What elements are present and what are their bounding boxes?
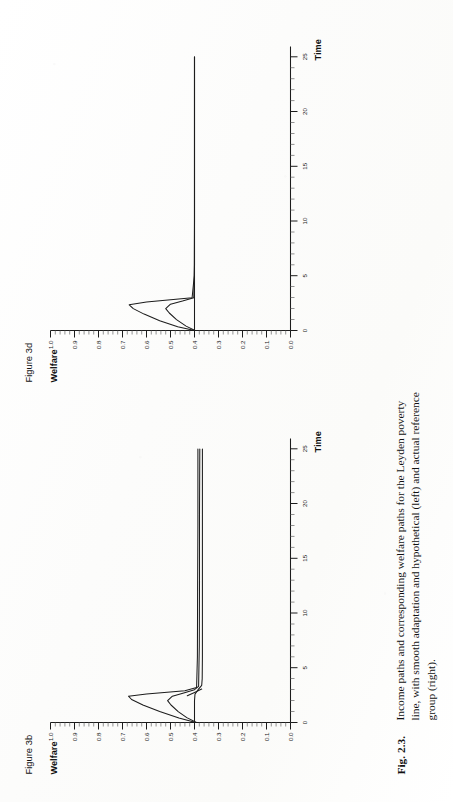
- svg-text:1.0: 1.0: [46, 339, 53, 348]
- svg-text:0.4: 0.4: [190, 339, 197, 348]
- svg-text:0.5: 0.5: [166, 339, 173, 348]
- svg-text:0.9: 0.9: [70, 339, 77, 348]
- svg-text:20: 20: [300, 107, 307, 114]
- svg-text:0.7: 0.7: [118, 339, 125, 348]
- svg-text:0.1: 0.1: [262, 339, 269, 348]
- svg-text:15: 15: [300, 162, 307, 169]
- svg-text:0.7: 0.7: [118, 731, 125, 740]
- svg-text:0.3: 0.3: [214, 339, 221, 348]
- chart-figure-3b: Figure 3b Welfare Time: [22, 414, 352, 774]
- svg-text:15: 15: [300, 554, 307, 561]
- svg-text:0.6: 0.6: [142, 339, 149, 348]
- svg-text:0.3: 0.3: [214, 731, 221, 740]
- figure-caption-tag: Fig. 2.3.: [394, 735, 406, 774]
- figure-caption-text: Income paths and corresponding welfare p…: [392, 390, 438, 720]
- figure-3d-plot-area: 1.0 0.9 0.8 0.7 0.6 0.5 0.4 0.3 0.2 0.1 …: [22, 22, 352, 382]
- svg-text:0.1: 0.1: [262, 731, 269, 740]
- svg-text:10: 10: [300, 609, 307, 616]
- svg-text:0.5: 0.5: [166, 731, 173, 740]
- figure-3b-plot-area: 1.0 0.9 0.8 0.7 0.6 0.5 0.4 0.3 0.2 0.1 …: [22, 414, 352, 774]
- svg-text:0.9: 0.9: [70, 731, 77, 740]
- svg-text:0.2: 0.2: [238, 339, 245, 348]
- svg-text:10: 10: [300, 217, 307, 224]
- rotated-page-canvas: Figure 3b Welfare Time: [0, 0, 453, 802]
- svg-text:5: 5: [300, 273, 307, 277]
- svg-text:25: 25: [300, 52, 307, 59]
- svg-text:0.8: 0.8: [94, 731, 101, 740]
- svg-text:0.4: 0.4: [190, 731, 197, 740]
- svg-text:0.6: 0.6: [142, 731, 149, 740]
- svg-text:20: 20: [300, 499, 307, 506]
- svg-text:0: 0: [300, 720, 307, 724]
- svg-text:0.0: 0.0: [286, 339, 293, 348]
- svg-text:0.8: 0.8: [94, 339, 101, 348]
- svg-text:0.2: 0.2: [238, 731, 245, 740]
- svg-text:0: 0: [300, 328, 307, 332]
- svg-text:1.0: 1.0: [46, 731, 53, 740]
- chart-figure-3d: Figure 3d Welfare Time: [22, 22, 352, 382]
- svg-text:5: 5: [300, 665, 307, 669]
- svg-text:25: 25: [300, 444, 307, 451]
- svg-text:0.0: 0.0: [286, 731, 293, 740]
- figure-caption: Fig. 2.3. Income paths and corresponding…: [392, 374, 432, 774]
